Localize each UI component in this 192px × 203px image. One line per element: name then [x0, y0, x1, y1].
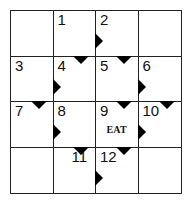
arrow-right-icon	[95, 33, 103, 49]
cell-number: 9	[100, 103, 108, 118]
grid-cell-r2c3[interactable]: 10	[139, 102, 182, 148]
crossword-grid: 1 2 3 4 5 6 7 8 9EAT 10 11 12	[10, 10, 182, 194]
cell-number: 3	[15, 58, 23, 73]
grid-cell-r2c0[interactable]: 7	[11, 102, 54, 148]
grid-cell-r0c3[interactable]	[139, 11, 182, 57]
cell-number: 4	[58, 58, 66, 73]
cell-number: 12	[100, 149, 117, 164]
grid-cell-r1c0[interactable]: 3	[11, 57, 54, 103]
arrow-down-icon	[31, 101, 47, 109]
arrow-down-icon	[116, 147, 132, 155]
grid-cell-r0c1[interactable]: 1	[54, 11, 97, 57]
arrow-down-icon	[73, 147, 89, 155]
grid-cell-r3c2[interactable]: 12	[96, 148, 139, 194]
arrow-right-icon	[138, 79, 146, 95]
grid-cell-r0c0[interactable]	[11, 11, 54, 57]
grid-cell-r0c2[interactable]: 2	[96, 11, 139, 57]
grid-cell-r1c3[interactable]: 6	[139, 57, 182, 103]
arrow-right-icon	[138, 124, 146, 140]
grid-cell-r3c3[interactable]	[139, 148, 182, 194]
grid-cell-r3c0[interactable]	[11, 148, 54, 194]
grid-cell-r3c1[interactable]: 11	[54, 148, 97, 194]
arrow-right-icon	[53, 79, 61, 95]
cell-number: 1	[58, 12, 66, 27]
grid-cell-r2c1[interactable]: 8	[54, 102, 97, 148]
arrow-down-icon	[116, 56, 132, 64]
arrow-down-icon	[116, 101, 132, 109]
cell-number: 2	[100, 12, 108, 27]
grid-cell-r2c2[interactable]: 9EAT	[96, 102, 139, 148]
cell-number: 10	[143, 103, 160, 118]
grid-cell-r1c2[interactable]: 5	[96, 57, 139, 103]
cell-number: 8	[58, 103, 66, 118]
cell-answer: EAT	[96, 124, 138, 135]
cell-number: 6	[143, 58, 151, 73]
cell-number: 7	[15, 103, 23, 118]
arrow-right-icon	[95, 170, 103, 186]
arrow-right-icon	[53, 124, 61, 140]
cell-number: 5	[100, 58, 108, 73]
arrow-down-icon	[73, 56, 89, 64]
arrow-down-icon	[159, 101, 175, 109]
grid-cell-r1c1[interactable]: 4	[54, 57, 97, 103]
